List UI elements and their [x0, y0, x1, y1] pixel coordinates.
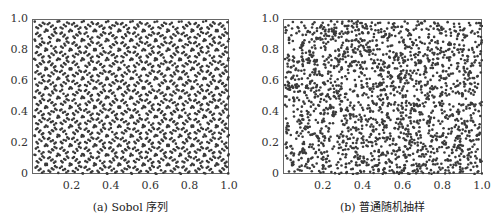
data-point	[354, 29, 357, 32]
data-point	[327, 24, 330, 27]
data-point	[432, 96, 435, 99]
data-point	[130, 153, 133, 156]
data-point	[187, 75, 190, 78]
data-point	[432, 58, 435, 61]
data-point	[42, 113, 45, 116]
data-point	[163, 152, 166, 155]
data-point	[342, 32, 345, 35]
data-point	[404, 164, 407, 167]
data-point	[359, 64, 362, 67]
data-point	[160, 169, 163, 172]
data-point	[87, 24, 90, 27]
data-point	[419, 119, 422, 122]
data-point	[338, 143, 341, 146]
data-point	[171, 56, 174, 59]
data-point	[172, 129, 175, 132]
data-point	[103, 84, 106, 87]
data-point	[143, 30, 146, 33]
data-point	[292, 21, 295, 24]
data-point	[362, 135, 365, 138]
data-point	[466, 68, 469, 71]
data-point	[309, 74, 312, 77]
data-point	[291, 27, 294, 30]
data-point	[132, 128, 135, 131]
data-point	[429, 91, 432, 94]
data-point	[424, 164, 427, 167]
data-point	[402, 61, 405, 64]
data-point	[330, 59, 333, 62]
data-point	[163, 117, 166, 120]
data-point	[432, 27, 435, 30]
data-point	[199, 104, 202, 107]
data-point	[86, 73, 89, 76]
data-point	[376, 85, 379, 88]
data-point	[313, 82, 316, 85]
data-point	[319, 101, 322, 104]
data-point	[145, 93, 148, 96]
data-point	[371, 166, 374, 169]
data-point	[363, 74, 366, 77]
data-point	[89, 95, 92, 98]
data-point	[462, 29, 465, 32]
data-point	[303, 72, 306, 75]
data-point	[379, 73, 382, 76]
data-point	[189, 118, 192, 121]
data-point	[359, 38, 362, 41]
data-point	[108, 33, 111, 36]
data-point	[322, 109, 325, 112]
data-point	[206, 45, 209, 48]
data-point	[290, 66, 293, 69]
data-point	[191, 66, 194, 69]
data-point	[374, 119, 377, 122]
data-point	[91, 75, 94, 78]
data-point	[53, 142, 56, 145]
data-point	[71, 157, 74, 160]
data-point	[415, 44, 418, 47]
data-point	[73, 56, 76, 59]
data-point	[459, 171, 462, 174]
data-point	[108, 83, 111, 86]
data-point	[294, 84, 297, 87]
data-point	[308, 119, 311, 122]
data-point	[468, 135, 471, 138]
data-point	[372, 83, 375, 86]
data-point	[474, 59, 477, 62]
data-point	[220, 56, 223, 59]
data-point	[313, 60, 316, 63]
data-point	[464, 83, 467, 86]
data-point	[424, 94, 427, 97]
data-point	[217, 157, 220, 160]
data-point	[369, 40, 372, 43]
data-point	[54, 126, 57, 129]
data-point	[139, 21, 142, 24]
data-point	[190, 69, 193, 72]
data-point	[378, 83, 381, 86]
data-point	[325, 125, 328, 128]
data-point	[226, 127, 229, 130]
data-point	[347, 55, 350, 58]
data-point	[396, 171, 399, 174]
data-point	[99, 63, 102, 66]
data-point	[68, 22, 71, 25]
data-point	[445, 147, 448, 150]
data-point	[198, 35, 201, 38]
data-point	[344, 148, 347, 151]
data-point	[286, 56, 289, 59]
data-point	[89, 120, 92, 123]
data-point	[50, 45, 53, 48]
data-point	[307, 58, 310, 61]
data-point	[430, 145, 433, 148]
data-point	[345, 135, 348, 138]
data-point	[344, 166, 347, 169]
data-point	[442, 70, 445, 73]
data-point	[50, 110, 53, 113]
data-point	[462, 109, 465, 112]
data-point	[371, 90, 374, 93]
data-point	[221, 83, 224, 86]
data-point	[116, 99, 119, 102]
data-point	[161, 53, 164, 56]
data-point	[331, 114, 334, 117]
data-point	[57, 172, 60, 175]
data-point	[439, 49, 442, 52]
data-point	[346, 32, 349, 35]
